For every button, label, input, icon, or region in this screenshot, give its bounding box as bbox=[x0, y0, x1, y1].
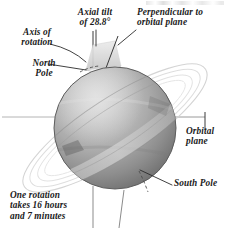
label-axial-tilt: Axial tilt of 28.8° bbox=[66, 7, 124, 28]
label-perpendicular-to-orbital-plane: Perpendicular to orbital plane bbox=[137, 7, 229, 28]
label-north-pole: North Pole bbox=[22, 58, 66, 79]
label-rotation-period: One rotation takes 16 hours and 7 minute… bbox=[10, 190, 114, 221]
label-axis-of-rotation: Axis of rotation bbox=[6, 27, 68, 48]
axial-tilt-diagram: Axial tilt of 28.8° Perpendicular to orb… bbox=[0, 0, 231, 233]
label-orbital-plane: Orbital plane bbox=[186, 126, 230, 147]
label-south-pole: South Pole bbox=[174, 178, 230, 188]
